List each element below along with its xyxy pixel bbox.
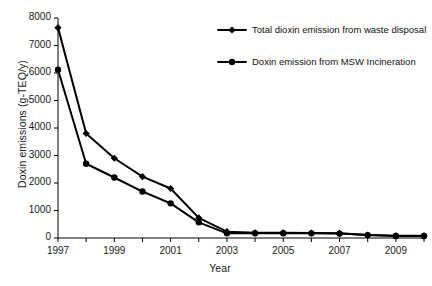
x-axis-ticks xyxy=(58,238,424,242)
data-point-marker xyxy=(139,188,145,194)
data-point-marker xyxy=(196,219,202,225)
legend-markers xyxy=(218,26,246,65)
series-2 xyxy=(55,67,427,240)
legend-label-msw-incineration: Doxin emission from MSW Incineration xyxy=(252,56,416,67)
data-point-marker xyxy=(55,67,61,73)
data-point-marker xyxy=(421,233,427,239)
axis-lines xyxy=(58,18,424,238)
legend-label-total-dioxin: Total dioxin emission from waste disposa… xyxy=(252,24,426,35)
legend-marker-2 xyxy=(229,59,235,65)
data-point-marker xyxy=(111,174,117,180)
legend-marker-1 xyxy=(228,26,235,33)
y-axis-ticks xyxy=(54,18,58,238)
data-point-marker xyxy=(167,200,173,206)
dioxin-emissions-line-chart: Doxin emissions (g-TEQ/y) Year 010002000… xyxy=(0,0,432,286)
data-point-marker xyxy=(252,230,258,236)
data-point-marker xyxy=(308,230,314,236)
data-point-marker xyxy=(224,230,230,236)
data-point-marker xyxy=(336,230,342,236)
data-point-marker xyxy=(393,233,399,239)
series-line xyxy=(58,70,424,236)
data-point-marker xyxy=(364,232,370,238)
data-point-marker xyxy=(54,24,61,31)
plot-area xyxy=(0,0,432,286)
data-point-marker xyxy=(83,161,89,167)
data-point-marker xyxy=(280,230,286,236)
